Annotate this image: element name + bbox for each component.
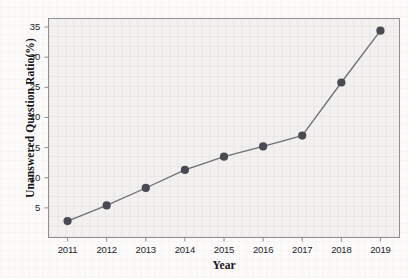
x-tick-label-2013: 2013 [126, 244, 166, 255]
chart-canvas [0, 0, 408, 278]
data-point-2012 [103, 201, 111, 209]
x-tick-label-2016: 2016 [243, 244, 283, 255]
y-axis-title: Unanswered Question Ratio(%) [24, 8, 36, 228]
axis-tick-marks [45, 27, 381, 241]
data-point-2013 [142, 184, 150, 192]
x-axis-title: Year [48, 259, 400, 271]
data-point-2011 [63, 217, 71, 225]
chart-figure: 5101520253035 20112012201320142015201620… [0, 0, 408, 278]
series-line [68, 31, 381, 221]
data-series-line [68, 31, 381, 221]
x-tick-label-2017: 2017 [282, 244, 322, 255]
data-point-2017 [298, 131, 306, 139]
data-point-2018 [337, 78, 345, 86]
x-tick-label-2015: 2015 [204, 244, 244, 255]
data-point-2019 [376, 27, 384, 35]
data-point-markers [63, 27, 384, 226]
x-tick-label-2019: 2019 [360, 244, 400, 255]
x-tick-label-2011: 2011 [48, 244, 88, 255]
x-tick-label-2014: 2014 [165, 244, 205, 255]
x-tick-label-2018: 2018 [321, 244, 361, 255]
data-point-2016 [259, 142, 267, 150]
data-point-2015 [220, 153, 228, 161]
data-point-2014 [181, 166, 189, 174]
x-tick-label-2012: 2012 [87, 244, 127, 255]
